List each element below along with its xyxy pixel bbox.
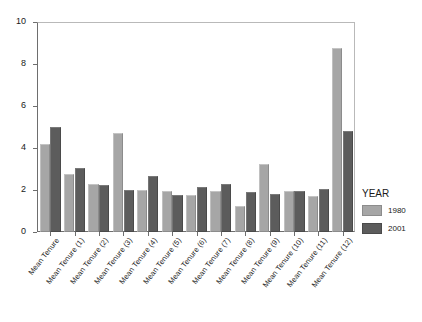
legend-label-1980: 1980	[388, 206, 406, 215]
bar-1980-13[interactable]	[332, 48, 342, 232]
y-tick-mark	[33, 22, 37, 23]
bar-group	[38, 22, 355, 232]
y-tick-mark	[33, 190, 37, 191]
legend-swatch-2001	[362, 223, 382, 234]
y-tick-label: 4	[21, 143, 26, 152]
y-tick-mark	[33, 64, 37, 65]
bar-2001-13[interactable]	[343, 131, 353, 232]
y-tick-mark	[33, 106, 37, 107]
legend-swatch-1980	[362, 205, 382, 216]
legend-item-1980[interactable]: 1980	[362, 205, 422, 216]
legend: YEAR 1980 2001	[362, 188, 422, 241]
y-tick-label: 8	[21, 59, 26, 68]
y-tick-label: 2	[21, 185, 26, 194]
y-tick-label: 0	[21, 227, 26, 236]
x-axis-labels: Mean TenureMean Tenure (1)Mean Tenure (2…	[0, 236, 422, 322]
y-tick-mark	[33, 148, 37, 149]
y-tick-mark	[33, 232, 37, 233]
legend-item-2001[interactable]: 2001	[362, 223, 422, 234]
y-tick-label: 10	[16, 17, 26, 26]
legend-label-2001: 2001	[388, 224, 406, 233]
bar-chart: 0246810 Mean TenureMean Tenure (1)Mean T…	[0, 0, 422, 322]
y-tick-label: 6	[21, 101, 26, 110]
legend-title: YEAR	[362, 188, 422, 199]
plot-area	[38, 22, 355, 232]
